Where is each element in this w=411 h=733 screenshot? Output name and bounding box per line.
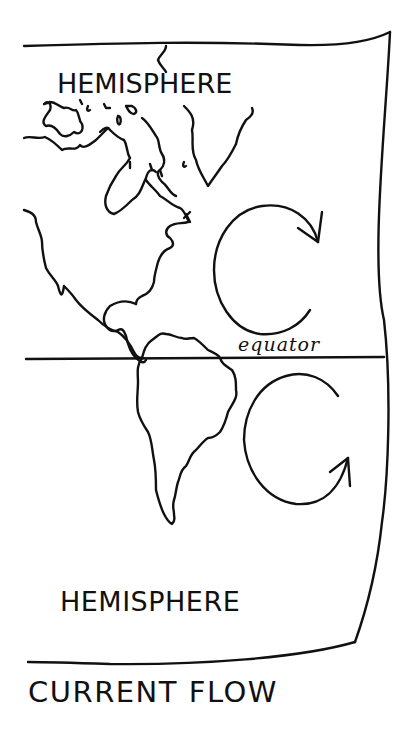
current-flow-diagram: HEMISPHERE equator HEMISPHERE CURRENT FL… [0,0,411,733]
north-america-outline [24,100,190,362]
equator-label: equator [238,333,320,355]
northern-hemisphere-label: HEMISPHERE [57,68,232,99]
northern-gyre-clockwise-arrow [214,205,322,334]
southern-gyre-counterclockwise-arrow [244,374,350,504]
greenland-outline [184,106,253,186]
south-america-outline [137,333,236,524]
equator-line [26,357,384,359]
diagram-title: CURRENT FLOW [28,675,278,709]
southern-hemisphere-label: HEMISPHERE [60,586,240,617]
map-drawing [0,0,411,733]
